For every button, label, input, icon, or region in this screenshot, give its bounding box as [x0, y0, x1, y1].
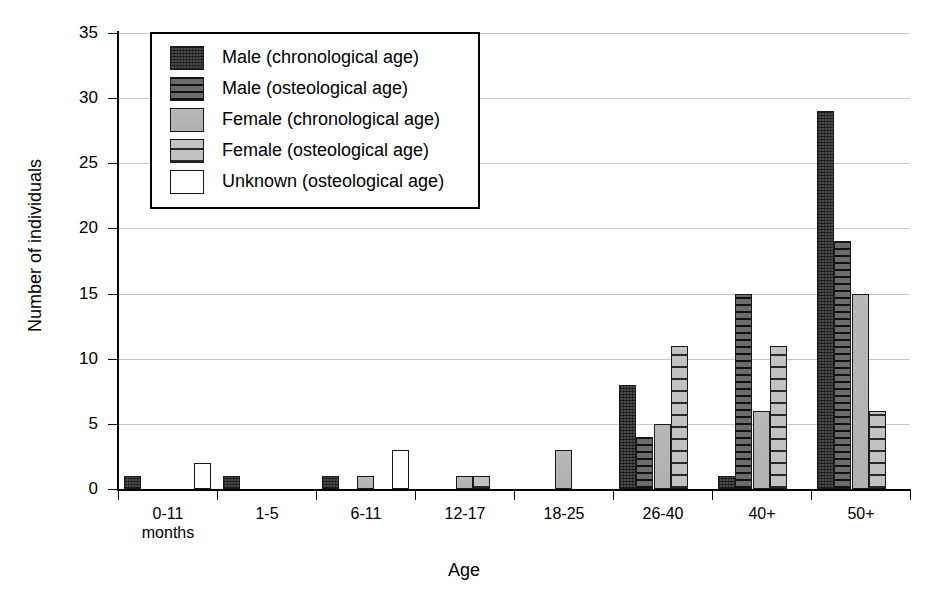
- bar-female-osteo: [770, 346, 787, 489]
- legend-swatch-female-chron: [170, 108, 204, 132]
- bar-male-chron: [223, 476, 240, 489]
- x-tick-mark: [514, 491, 515, 500]
- legend-swatch-female-osteo: [170, 139, 204, 163]
- bar-male-chron: [817, 111, 834, 489]
- x-tick-label: 50+: [801, 504, 921, 523]
- bar-female-chron: [357, 476, 374, 489]
- y-axis-title: Number of individuals: [25, 116, 46, 376]
- y-tick-label: 35: [58, 24, 98, 41]
- bar-chart-figure: Number of individuals Age 05101520253035…: [0, 0, 928, 615]
- y-tick-label: 20: [58, 219, 98, 236]
- bar-female-osteo: [473, 476, 490, 489]
- x-tick-label-line: months: [108, 523, 228, 542]
- y-tick-label: 30: [58, 89, 98, 106]
- x-tick-mark: [712, 491, 713, 500]
- bar-male-osteo: [834, 241, 851, 489]
- legend-label: Male (chronological age): [222, 44, 419, 71]
- bar-unknown-osteo: [194, 463, 211, 489]
- bar-male-chron: [124, 476, 141, 489]
- y-tick-label: 0: [58, 480, 98, 497]
- bar-female-chron: [852, 294, 869, 489]
- x-axis-line: [117, 489, 911, 491]
- legend-label: Female (osteological age): [222, 137, 429, 164]
- bar-female-chron: [753, 411, 770, 489]
- y-tick-label: 10: [58, 350, 98, 367]
- bar-male-chron: [322, 476, 339, 489]
- x-tick-label-line: 50+: [801, 504, 921, 523]
- bar-male-chron: [718, 476, 735, 489]
- bar-female-osteo: [869, 411, 886, 489]
- x-tick-mark: [910, 491, 911, 500]
- x-tick-mark: [217, 491, 218, 500]
- legend-label: Male (osteological age): [222, 75, 408, 102]
- y-tick-label: 25: [58, 154, 98, 171]
- legend-swatch-male-chron: [170, 46, 204, 70]
- x-tick-mark: [613, 491, 614, 500]
- x-tick-mark: [415, 491, 416, 500]
- bar-female-chron: [654, 424, 671, 489]
- legend-label: Unknown (osteological age): [222, 168, 444, 195]
- x-tick-mark: [118, 491, 119, 500]
- bar-female-chron: [456, 476, 473, 489]
- legend-swatch-unknown-osteo: [170, 170, 204, 194]
- bar-male-chron: [619, 385, 636, 489]
- x-axis-title: Age: [0, 560, 928, 581]
- x-tick-mark: [811, 491, 812, 500]
- y-tick-label: 15: [58, 285, 98, 302]
- bar-unknown-osteo: [392, 450, 409, 489]
- x-tick-mark: [316, 491, 317, 500]
- bar-male-osteo: [636, 437, 653, 489]
- bar-male-osteo: [735, 294, 752, 489]
- legend-label: Female (chronological age): [222, 106, 440, 133]
- chart-legend: Male (chronological age)Male (osteologic…: [150, 32, 480, 209]
- bar-female-chron: [555, 450, 572, 489]
- legend-swatch-male-osteo: [170, 77, 204, 101]
- y-tick-label: 5: [58, 415, 98, 432]
- bar-female-osteo: [671, 346, 688, 489]
